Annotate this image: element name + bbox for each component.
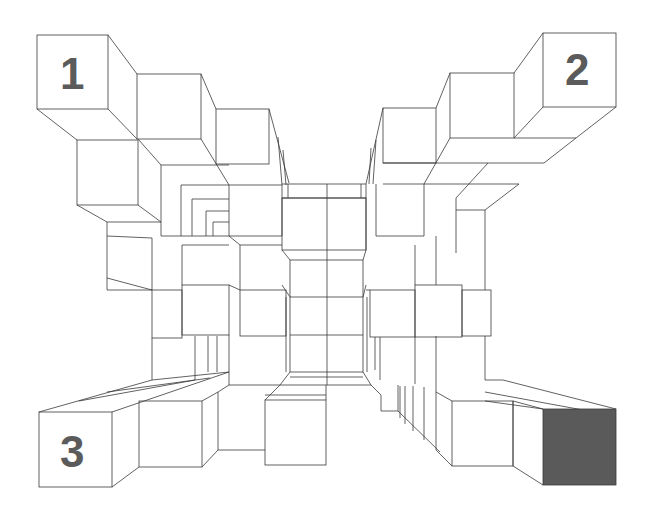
cube-structure-drawing bbox=[0, 0, 650, 516]
cube-illusion-figure: 1 2 3 bbox=[0, 0, 650, 516]
cube-label-2: 2 bbox=[565, 48, 589, 92]
central-tunnel bbox=[280, 184, 371, 385]
shaded-cube-face bbox=[543, 409, 616, 485]
right-mid-blocks bbox=[366, 236, 491, 384]
cube-label-1: 1 bbox=[60, 52, 84, 96]
arm-bottom-right bbox=[371, 380, 616, 485]
left-mid-blocks bbox=[107, 236, 286, 380]
cube-label-3: 3 bbox=[60, 430, 84, 474]
